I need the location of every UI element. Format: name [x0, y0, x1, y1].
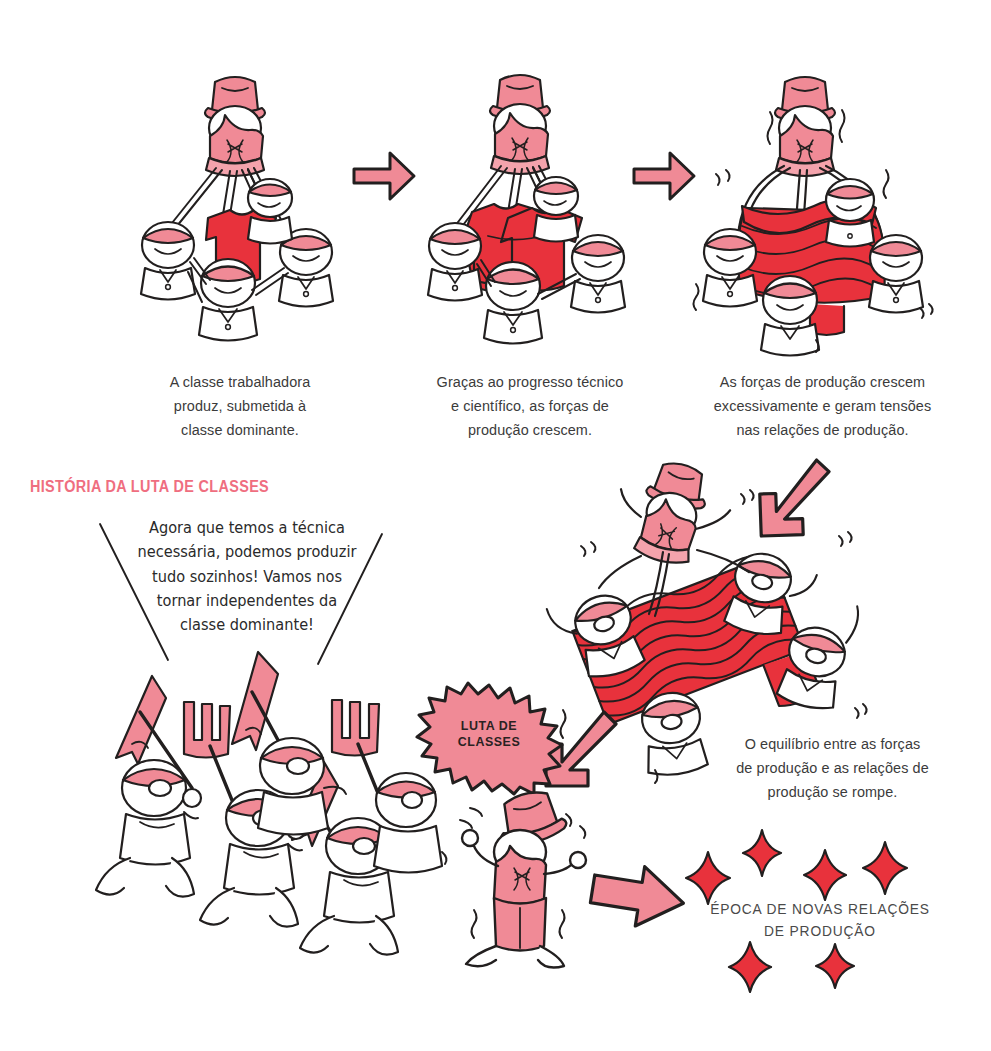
panel-1-caption: A classe trabalhadora produz, submetida …: [138, 370, 343, 442]
caption-line: nas relações de produção.: [699, 418, 945, 442]
marching-workers-illustration: [80, 640, 430, 970]
balloon-line: necessária, podemos produzir: [116, 540, 378, 564]
balloon-line: tornar independentes da: [116, 589, 378, 613]
caption-line: e científico, as forças de: [418, 394, 641, 418]
starburst-label: LUTA DE CLASSES: [420, 718, 558, 749]
sparkle-star: [804, 850, 846, 900]
balloon-line: tudo sozinhos! Vamos nos: [116, 565, 378, 589]
sparkle-star: [729, 942, 771, 992]
worker-back: [248, 179, 292, 244]
starburst-label-line: LUTA DE: [420, 718, 558, 734]
worker-falling-bottom: [638, 689, 709, 778]
caption-line: de produção e as relações de: [709, 756, 955, 780]
speech-balloon-text: Agora que temos a técnica necessária, po…: [116, 516, 378, 637]
arm-right: [544, 862, 574, 874]
caption-line: Graças ao progresso técnico: [418, 370, 641, 394]
break-caption: O equilíbrio entre as forças de produção…: [709, 732, 955, 804]
worker-front: [761, 276, 819, 356]
caption-line: classe dominante.: [138, 418, 343, 442]
era-caption: ÉPOCA DE NOVAS RELAÇÕES DE PRODUÇÃO: [673, 898, 967, 942]
worker-back: [826, 179, 874, 247]
panel-3-illustration: [680, 40, 945, 355]
panel-3-caption: As forças de produção crescem excessivam…: [699, 370, 945, 442]
caption-line: A classe trabalhadora: [138, 370, 343, 394]
capitalist-figure: [490, 75, 550, 174]
section-heading: HISTÓRIA DA LUTA DE CLASSES: [30, 478, 269, 496]
marching-worker-1: [96, 760, 201, 897]
starburst-label-line: CLASSES: [420, 734, 558, 750]
comic-page: A classe trabalhadora produz, submetida …: [0, 0, 991, 1051]
worker-front: [199, 259, 257, 341]
caption-line: produção se rompe.: [709, 780, 955, 804]
worker-right: [571, 235, 625, 313]
sparkle-star: [863, 842, 907, 894]
sparkle-star: [816, 944, 854, 988]
sparkle-star: [743, 830, 781, 876]
sparkle-star: [686, 852, 730, 904]
caption-line: O equilíbrio entre as forças: [709, 732, 955, 756]
panel-2-caption: Graças ao progresso técnico e científico…: [418, 370, 641, 442]
balloon-line: classe dominante!: [116, 613, 378, 637]
worker-right: [869, 235, 923, 313]
worker-left: [703, 229, 757, 307]
worker-front: [484, 262, 542, 344]
panel-1-illustration: [110, 40, 360, 350]
capitalist-figure: [205, 77, 265, 176]
panel-2-illustration: [400, 40, 650, 350]
balloon-line: Agora que temos a técnica: [116, 516, 378, 540]
caption-line: As forças de produção crescem: [699, 370, 945, 394]
capitalist-figure: [775, 77, 835, 176]
worker-back: [534, 177, 578, 242]
caption-line: produção crescem.: [418, 418, 641, 442]
starburst-badge: LUTA DE CLASSES: [414, 682, 564, 794]
caption-line: DE PRODUÇÃO: [673, 920, 967, 942]
worker-left: [141, 222, 195, 300]
caption-line: ÉPOCA DE NOVAS RELAÇÕES: [673, 898, 967, 920]
caption-line: produz, submetida à: [138, 394, 343, 418]
caption-line: excessivamente e geram tensões: [699, 394, 945, 418]
worker-left: [428, 223, 482, 301]
